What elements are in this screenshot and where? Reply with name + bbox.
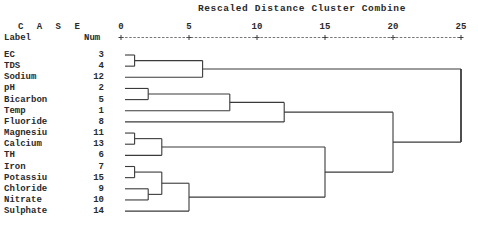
dendrogram <box>0 0 478 228</box>
